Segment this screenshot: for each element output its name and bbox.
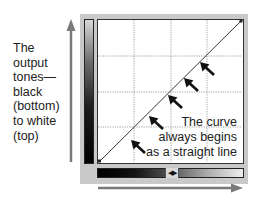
curve-endpoint-white (240, 20, 243, 23)
curves-diagram: The output tones— black (bottom) to whit… (0, 0, 256, 198)
diagram-overlay (0, 0, 256, 198)
input-axis-arrow-icon (98, 184, 243, 193)
caption-line: always begins (146, 130, 237, 145)
straight-line-caption: The curve always begins as a straight li… (146, 115, 237, 160)
pointer-arrow-icon (184, 78, 198, 91)
caption-line: as a straight line (146, 145, 237, 160)
caption-line: The curve (146, 115, 237, 130)
curve-endpoint-black (98, 160, 101, 163)
output-axis-arrow-icon (67, 19, 76, 162)
pointer-arrow-icon (131, 140, 145, 153)
pointer-arrow-icon (168, 95, 182, 108)
